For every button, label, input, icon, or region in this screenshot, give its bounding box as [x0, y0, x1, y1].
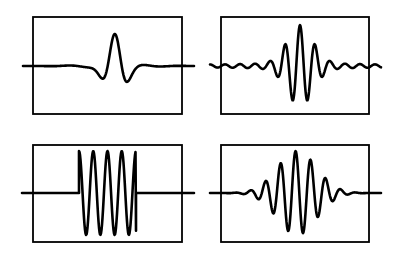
panel-bottom-left-rect-windowed	[22, 145, 194, 242]
wavelet-figure	[0, 0, 400, 256]
waveform	[210, 151, 381, 233]
waveform	[23, 34, 194, 82]
panel-bottom-right-gaussian-windowed	[210, 145, 381, 242]
waveform	[210, 25, 381, 100]
panel-top-left-mexican-hat	[23, 17, 194, 114]
panel-top-right-sinc	[210, 17, 381, 114]
waveform	[22, 151, 194, 235]
